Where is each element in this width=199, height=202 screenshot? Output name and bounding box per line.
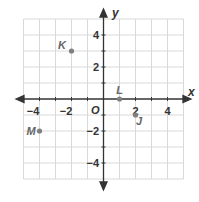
point-marker-icon [37, 128, 42, 133]
point-marker-icon [69, 48, 74, 53]
x-axis-left-arrow-icon [16, 96, 24, 103]
coordinate-plane: x y O −4 −2 2 4 4 2 −2 −4 K L J M [0, 0, 199, 202]
x-tick-label: 4 [164, 105, 171, 117]
point-label: J [136, 115, 143, 127]
point-marker-icon [117, 96, 122, 101]
y-axis-up-arrow-icon [100, 9, 107, 17]
point-label: M [26, 125, 36, 137]
x-tick-label: −2 [60, 105, 73, 117]
point-L: L [116, 84, 123, 102]
x-tick-label: −4 [27, 105, 40, 117]
y-tick-label: 2 [93, 61, 99, 73]
point-label: L [116, 84, 123, 96]
y-tick-label: −4 [86, 157, 99, 169]
y-axis-label: y [111, 6, 120, 20]
origin-label: O [91, 104, 100, 116]
y-tick-label: 4 [93, 29, 100, 41]
x-axis-label: x [187, 85, 196, 99]
point-J: J [133, 112, 143, 127]
y-axis-down-arrow-icon [100, 182, 107, 190]
point-label: K [58, 39, 67, 51]
y-tick-label: −2 [86, 125, 99, 137]
